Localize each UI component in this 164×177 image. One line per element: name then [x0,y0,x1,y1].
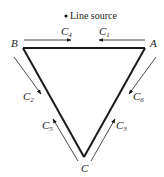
vertex-a-label: A [149,37,157,49]
label-c5: C5 [42,119,53,133]
label-c6: C6 [133,90,144,104]
line-source-dot [64,14,67,17]
vertex-b-label: B [11,37,18,49]
line-source-label: Line source [70,10,117,21]
label-c4: C4 [61,25,72,39]
label-c3: C3 [116,119,127,133]
arrow-c6-icon [129,57,156,94]
vertex-c-label: C [81,162,89,174]
arrow-c2-icon [14,57,41,94]
label-c1: C1 [99,25,110,39]
triangle-diagram: Line source B A C C4 C1 C2 C6 C5 C3 [0,0,164,177]
label-c2: C2 [23,90,34,104]
edge-a-c [84,48,145,157]
triangle [23,48,145,157]
